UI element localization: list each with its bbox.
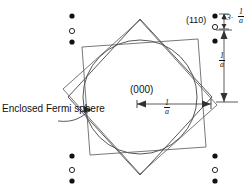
fraction-numerator: 1 xyxy=(238,8,244,16)
fraction-numerator: 1 xyxy=(164,99,170,107)
lattice-point-filled xyxy=(69,178,74,183)
delta-term-label: δ3· xyxy=(222,12,233,22)
lattice-point-filled xyxy=(212,178,217,183)
fermi-sphere-label: Enclosed Fermi sphere xyxy=(2,103,62,115)
lattice-point-filled xyxy=(212,153,217,158)
delta-dimension-arrow-bottom xyxy=(222,24,227,29)
fraction-numerator: 1 xyxy=(219,52,225,60)
lattice-point-open xyxy=(69,167,74,172)
fraction-denominator: a xyxy=(219,60,225,69)
fraction-denominator: a xyxy=(164,107,170,116)
lattice-point-filled xyxy=(212,38,217,43)
lattice-point-filled xyxy=(69,13,74,18)
delta-dimension-fraction: 1 a xyxy=(238,8,244,25)
brillouin-zone-figure: (000) (110) Enclosed Fermi sphere δ3· 1 … xyxy=(0,0,252,188)
lattice-point-filled xyxy=(69,153,74,158)
vertical-dimension-fraction: 1 a xyxy=(219,52,225,69)
reflection-110-label: (110) xyxy=(186,15,206,25)
horizontal-dimension-fraction: 1 a xyxy=(164,99,170,116)
delta-symbol: δ3 xyxy=(222,12,231,22)
delta-operator: · xyxy=(231,12,233,22)
vertical-dimension-arrow-top xyxy=(221,30,228,39)
horizontal-dimension-arrow-right xyxy=(202,101,211,108)
lattice-point-open xyxy=(212,24,217,29)
lattice-point-open xyxy=(212,167,217,172)
horizontal-dimension-arrow-left xyxy=(137,101,146,108)
diagram-canvas xyxy=(0,0,252,188)
lattice-point-filled xyxy=(212,13,217,18)
vertical-dimension-arrow-bottom xyxy=(221,93,228,102)
fraction-denominator: a xyxy=(238,16,244,25)
lattice-point-open xyxy=(69,28,74,33)
lattice-point-filled xyxy=(69,39,74,44)
fermi-sphere-circle xyxy=(83,40,197,154)
origin-label: (000) xyxy=(130,84,153,96)
